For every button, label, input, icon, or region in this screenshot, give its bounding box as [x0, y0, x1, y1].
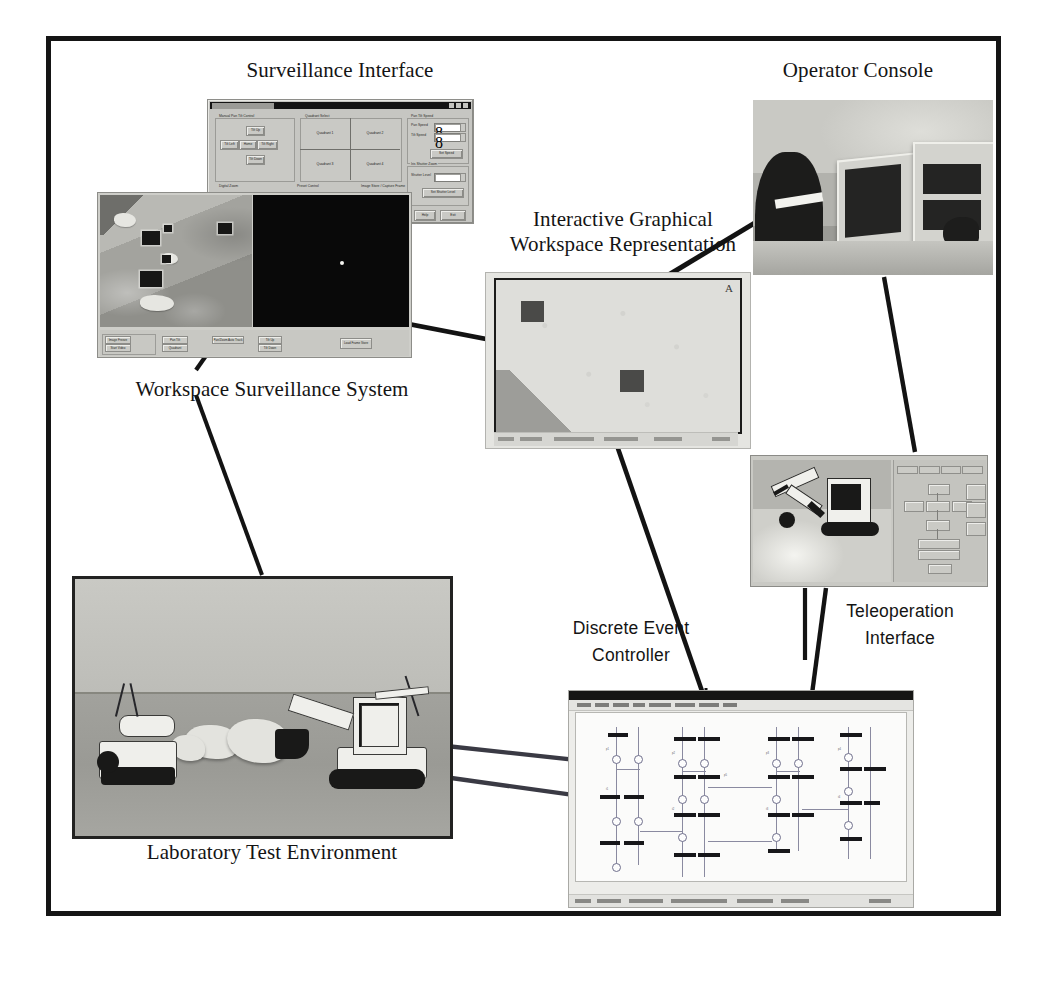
menu-window[interactable] [699, 703, 719, 707]
transition-c4[interactable] [792, 775, 814, 779]
tracking-view[interactable] [253, 195, 409, 327]
transition-a5[interactable] [624, 841, 644, 845]
teleop-control-panel[interactable] [893, 460, 986, 582]
quadrant-1-cell[interactable]: Quadrant 1 [300, 118, 350, 149]
menu-analyze[interactable] [675, 703, 695, 707]
transition-a4[interactable] [600, 841, 620, 845]
place-b1[interactable] [678, 759, 687, 768]
dialog-maximize-icon[interactable] [456, 103, 461, 108]
pan-speed-stepper[interactable] [460, 123, 466, 132]
obstacle-2[interactable] [620, 370, 644, 392]
tilt-down-button-2[interactable]: Tilt Down [258, 344, 282, 352]
transition-b8[interactable] [698, 853, 720, 857]
save-position-button[interactable] [918, 539, 960, 549]
place-d1[interactable] [844, 753, 853, 762]
transition-d3[interactable] [864, 767, 886, 771]
place-c2[interactable] [794, 759, 803, 768]
transition-d6[interactable] [840, 837, 862, 841]
auto-track-button[interactable]: Pan/Zoom Auto Track [212, 336, 244, 344]
transition-c5[interactable] [768, 813, 790, 817]
obstacle-1[interactable] [521, 301, 544, 322]
workspace-canvas[interactable]: A [494, 278, 742, 434]
grip-close-button[interactable] [966, 502, 986, 518]
transition-b3[interactable] [674, 775, 696, 779]
teleoperation-interface-window[interactable] [750, 455, 988, 587]
transition-d5[interactable] [864, 801, 880, 805]
tab-trace[interactable] [941, 466, 962, 474]
place-a3[interactable] [612, 817, 621, 826]
pan-speed-input[interactable]: 8 [434, 123, 462, 132]
transition-c2[interactable] [792, 737, 814, 741]
tilt-speed-input[interactable]: 8 [434, 133, 462, 142]
quadrant-3-cell[interactable]: Quadrant 3 [300, 149, 350, 180]
tilt-up-button[interactable]: Tilt Up [246, 126, 265, 136]
place-b5[interactable] [678, 833, 687, 842]
set-speed-button[interactable]: Set Speed [430, 149, 463, 159]
menu-view[interactable] [613, 703, 629, 707]
transition-c7[interactable] [768, 849, 790, 853]
set-shutter-level-button[interactable]: Set Shutter Level [422, 188, 464, 198]
place-b3[interactable] [678, 795, 687, 804]
transition-b4[interactable] [698, 775, 720, 779]
place-b2[interactable] [700, 759, 709, 768]
transition-b6[interactable] [698, 813, 720, 817]
menu-net[interactable] [633, 703, 645, 707]
place-a1[interactable] [612, 755, 621, 764]
place-c1[interactable] [772, 759, 781, 768]
zoom-controls-group[interactable] [966, 522, 986, 536]
pan-tilt-button[interactable]: Pan Tilt [162, 336, 188, 344]
surveillance-toolbar[interactable]: Image Freeze Start Video Pan Tilt Quadra… [100, 330, 409, 356]
place-a2[interactable] [634, 755, 643, 764]
menu-help[interactable] [723, 703, 737, 707]
transition-b1[interactable] [674, 737, 696, 741]
workspace-surveillance-window[interactable]: Image Freeze Start Video Pan Tilt Quadra… [97, 192, 412, 358]
teleop-tab-strip[interactable] [897, 466, 983, 474]
transition-d2[interactable] [840, 767, 862, 771]
place-c4[interactable] [772, 833, 781, 842]
transition-c1[interactable] [768, 737, 790, 741]
tab-tools[interactable] [962, 466, 983, 474]
transition-a3[interactable] [624, 795, 644, 799]
transition-a2[interactable] [600, 795, 620, 799]
menu-simulate[interactable] [649, 703, 671, 707]
quadrant-4-cell[interactable]: Quadrant 4 [350, 149, 400, 180]
help-button[interactable]: Help [414, 210, 436, 221]
up-button[interactable] [928, 484, 950, 495]
exit-button[interactable]: Exit [440, 210, 466, 221]
place-a5[interactable] [612, 863, 621, 872]
graphical-workspace-window[interactable]: A [485, 272, 751, 449]
dec-menu-bar[interactable] [569, 700, 913, 711]
down-button[interactable] [926, 520, 950, 531]
quadrant-button[interactable]: Quadrant [162, 344, 188, 352]
tilt-down-button[interactable]: Tilt Down [246, 155, 265, 165]
menu-file[interactable] [577, 703, 591, 707]
menu-edit[interactable] [595, 703, 609, 707]
teleop-video-feed[interactable] [753, 460, 891, 582]
transition-d1[interactable] [840, 733, 862, 737]
dec-net-canvas[interactable]: p1 t1 p2 t2 p3 t3 p4 t4 p5 [575, 712, 907, 882]
transition-b7[interactable] [674, 853, 696, 857]
tilt-up-button-2[interactable]: Tilt Up [258, 336, 282, 344]
tilt-left-button[interactable]: Tilt Left [220, 140, 239, 150]
overhead-camera-view[interactable] [100, 195, 252, 327]
move-to-position-button[interactable] [918, 550, 960, 560]
discrete-event-controller-window[interactable]: p1 t1 p2 t2 p3 t3 p4 t4 p5 [568, 690, 914, 908]
transition-c6[interactable] [792, 813, 814, 817]
place-d2[interactable] [844, 787, 853, 796]
shutter-level-stepper[interactable] [460, 173, 466, 182]
shutter-level-input[interactable] [434, 173, 462, 182]
transition-b5[interactable] [674, 813, 696, 817]
left-button[interactable] [904, 501, 924, 512]
transition-a1[interactable] [608, 733, 628, 737]
transition-d4[interactable] [840, 801, 862, 805]
stop-button[interactable] [926, 501, 950, 512]
quadrant-2-cell[interactable]: Quadrant 2 [350, 118, 400, 149]
grip-open-button[interactable] [966, 484, 986, 500]
load-frame-store-button[interactable]: Load Frame Store [340, 338, 372, 349]
tab-auto[interactable] [919, 466, 940, 474]
place-b4[interactable] [700, 795, 709, 804]
start-video-button[interactable]: Start Video [105, 344, 131, 352]
tab-manual[interactable] [897, 466, 918, 474]
place-c3[interactable] [772, 795, 781, 804]
tilt-right-button[interactable]: Tilt Right [257, 140, 278, 150]
